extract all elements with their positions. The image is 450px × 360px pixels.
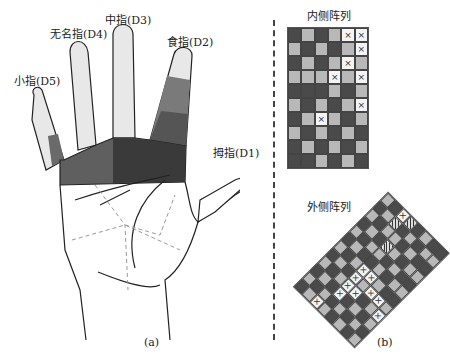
inner-array-cell bbox=[288, 70, 301, 84]
inner-array-cell bbox=[341, 112, 354, 126]
inner-array-cell bbox=[301, 140, 314, 154]
inner-array-cell bbox=[328, 112, 341, 126]
finger-label-d4: 无名指(D4) bbox=[50, 25, 107, 41]
inner-array-cell bbox=[341, 126, 354, 140]
outer-array-rotated-wrapper bbox=[293, 193, 448, 348]
inner-array-cell bbox=[315, 140, 328, 154]
inner-array-cell bbox=[315, 28, 328, 42]
inner-array-cell bbox=[288, 98, 301, 112]
inner-array-cell bbox=[301, 56, 314, 70]
inner-array-cell bbox=[355, 84, 368, 98]
inner-array-cell bbox=[341, 140, 354, 154]
inner-array-cell bbox=[355, 42, 368, 56]
finger-label-d1: 拇指(D1) bbox=[213, 144, 259, 160]
inner-array-cell bbox=[288, 84, 301, 98]
panel-a-caption: (a) bbox=[144, 336, 159, 349]
inner-array-cell bbox=[328, 84, 341, 98]
inner-array-cell bbox=[288, 56, 301, 70]
inner-array-cell bbox=[288, 126, 301, 140]
inner-array-cell bbox=[288, 42, 301, 56]
outer-array-title: 外侧阵列 bbox=[307, 198, 351, 214]
inner-array-cell bbox=[315, 154, 328, 168]
inner-array-cell bbox=[288, 154, 301, 168]
inner-array-cell bbox=[301, 126, 314, 140]
inner-array-cell bbox=[328, 42, 341, 56]
inner-array-cell bbox=[355, 126, 368, 140]
inner-array-cell bbox=[341, 56, 354, 70]
inner-array-cell bbox=[288, 28, 301, 42]
finger-label-d3: 中指(D3) bbox=[105, 11, 151, 27]
inner-array-cell bbox=[301, 84, 314, 98]
inner-array-cell bbox=[328, 70, 341, 84]
inner-array-cell bbox=[355, 28, 368, 42]
inner-array-cell bbox=[301, 28, 314, 42]
inner-array-cell bbox=[341, 98, 354, 112]
inner-array-cell bbox=[301, 42, 314, 56]
finger-label-d2: 食指(D2) bbox=[167, 33, 213, 49]
inner-array-cell bbox=[328, 126, 341, 140]
inner-array-cell bbox=[315, 98, 328, 112]
inner-array-cell bbox=[315, 84, 328, 98]
inner-array-cell bbox=[341, 42, 354, 56]
inner-array-cell bbox=[301, 70, 314, 84]
inner-array-cell bbox=[315, 112, 328, 126]
inner-array-cell bbox=[288, 140, 301, 154]
inner-array-cell bbox=[355, 70, 368, 84]
inner-array-cell bbox=[355, 112, 368, 126]
inner-array-cell bbox=[328, 56, 341, 70]
inner-array-cell bbox=[355, 98, 368, 112]
inner-array-cell bbox=[315, 56, 328, 70]
inner-array-cell bbox=[315, 126, 328, 140]
inner-array-cell bbox=[355, 154, 368, 168]
inner-array-cell bbox=[301, 154, 314, 168]
inner-array-cell bbox=[341, 154, 354, 168]
inner-array-cell bbox=[315, 70, 328, 84]
panel-divider bbox=[273, 20, 275, 340]
inner-array-cell bbox=[355, 140, 368, 154]
panel-b-caption: (b) bbox=[377, 336, 393, 349]
hand-diagram-panel: 小指(D5) 无名指(D4) 中指(D3) 食指(D2) 拇指(D1) P5 P… bbox=[0, 0, 240, 360]
inner-array-cell bbox=[341, 28, 354, 42]
inner-array-cell bbox=[315, 42, 328, 56]
inner-array-cell bbox=[328, 28, 341, 42]
inner-array-cell bbox=[328, 98, 341, 112]
finger-label-d5: 小指(D5) bbox=[14, 72, 60, 88]
inner-array-cell bbox=[328, 140, 341, 154]
inner-array-cell bbox=[301, 98, 314, 112]
inner-array-cell bbox=[355, 56, 368, 70]
inner-array-cell bbox=[301, 112, 314, 126]
inner-sensor-array bbox=[287, 27, 369, 169]
inner-array-cell bbox=[341, 70, 354, 84]
inner-array-cell bbox=[288, 112, 301, 126]
inner-array-title: 内侧阵列 bbox=[307, 7, 351, 23]
inner-array-cell bbox=[341, 84, 354, 98]
outer-sensor-array bbox=[293, 191, 450, 348]
hand-outline-illustration bbox=[0, 0, 240, 360]
inner-array-cell bbox=[328, 154, 341, 168]
